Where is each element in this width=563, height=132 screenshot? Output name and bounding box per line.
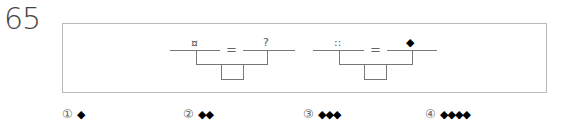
option-marker: ④ xyxy=(425,107,436,121)
right-symbol: ? xyxy=(263,36,269,49)
diamond-icon: ◆◆◆◆ xyxy=(440,108,470,121)
left-symbol: :: xyxy=(334,36,341,49)
diamond-icon: ◆ xyxy=(77,108,84,121)
option-marker: ② xyxy=(183,107,194,121)
answer-box xyxy=(365,65,387,80)
option-1[interactable]: ① ◆ xyxy=(62,107,84,121)
option-marker: ① xyxy=(62,107,73,121)
answer-options: ① ◆ ② ◆◆ ③ ◆◆◆ ④ ◆◆◆◆ xyxy=(0,107,563,127)
answer-box xyxy=(222,65,244,80)
left-symbol: ¤ xyxy=(191,37,198,50)
diamond-icon: ◆◆◆ xyxy=(318,108,340,121)
option-4[interactable]: ④ ◆◆◆◆ xyxy=(425,107,470,121)
option-3[interactable]: ③ ◆◆◆ xyxy=(303,107,340,121)
option-marker: ③ xyxy=(303,107,314,121)
equals-sign: = xyxy=(226,42,237,57)
equals-sign: = xyxy=(370,42,381,57)
option-2[interactable]: ② ◆◆ xyxy=(183,107,213,121)
right-symbol-diamond: ◆ xyxy=(406,36,415,49)
diamond-icon: ◆◆ xyxy=(198,108,213,121)
